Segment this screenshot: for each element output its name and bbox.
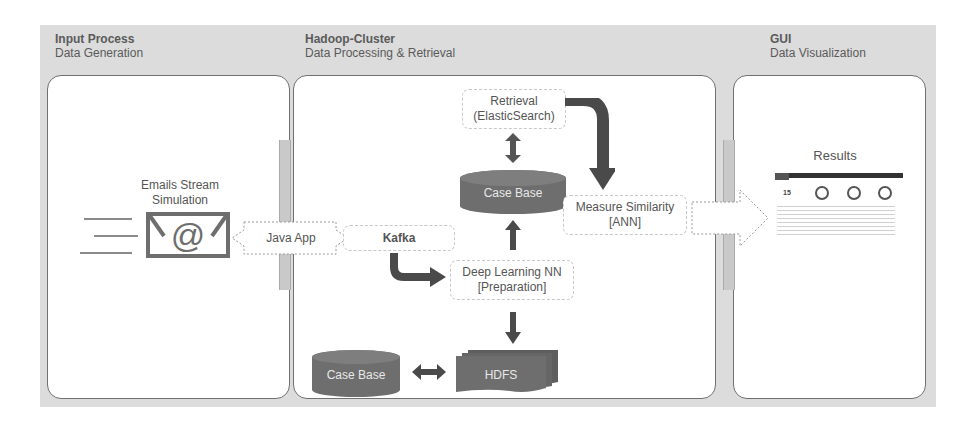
connector-bar-left	[279, 140, 291, 290]
dashboard-kpi: 15	[783, 189, 791, 196]
section-header-input: Input Process Data Generation	[55, 32, 143, 60]
results-label: Results	[790, 148, 880, 163]
email-label-line1: Emails Stream	[110, 178, 250, 193]
dl-to-hdfs-arrow	[505, 312, 521, 344]
dl-label-line2: [Preparation]	[478, 280, 547, 295]
results-dashboard-thumbnail: 15	[775, 173, 903, 241]
section-title: Hadoop-Cluster	[305, 32, 455, 46]
dashboard-logo	[775, 173, 789, 180]
case-base-bottom-label: Case Base	[310, 368, 402, 382]
kafka-to-dl-arrow	[388, 253, 450, 287]
retrieval-casebase-double-arrow	[505, 133, 521, 163]
section-header-cluster: Hadoop-Cluster Data Processing & Retriev…	[305, 32, 455, 60]
deep-learning-node: Deep Learning NN [Preparation]	[450, 260, 574, 300]
case-base-top-label: Case Base	[458, 186, 568, 200]
dashboard-header-bar	[775, 173, 903, 178]
measure-label-line1: Measure Similarity	[576, 200, 675, 215]
dl-label-line1: Deep Learning NN	[462, 265, 561, 280]
email-at-icon: @	[80, 210, 230, 260]
retrieval-to-measure-arrow	[565, 98, 615, 193]
kafka-label: Kafka	[383, 231, 416, 246]
section-subtitle: Data Generation	[55, 46, 143, 60]
section-subtitle: Data Visualization	[770, 46, 866, 60]
retrieval-node: Retrieval (ElasticSearch)	[462, 89, 566, 129]
email-stream-label: Emails Stream Simulation	[110, 178, 250, 208]
dashboard-gauge-1	[815, 186, 829, 200]
measure-similarity-node: Measure Similarity [ANN]	[563, 195, 687, 235]
dl-to-casebase-arrow	[505, 220, 521, 250]
email-label-line2: Simulation	[110, 193, 250, 208]
to-gui-arrow	[690, 188, 770, 248]
hdfs-label: HDFS	[454, 368, 548, 382]
measure-label-line2: [ANN]	[609, 215, 641, 230]
dashboard-gauge-3	[878, 186, 892, 200]
retrieval-label-line1: Retrieval	[490, 94, 537, 109]
retrieval-label-line2: (ElasticSearch)	[473, 109, 554, 124]
section-title: GUI	[770, 32, 866, 46]
kafka-node: Kafka	[343, 225, 455, 251]
dashboard-gauge-2	[847, 186, 861, 200]
java-app-label: Java App	[248, 231, 334, 246]
section-header-gui: GUI Data Visualization	[770, 32, 866, 60]
section-title: Input Process	[55, 32, 143, 46]
svg-text:@: @	[171, 216, 206, 254]
section-subtitle: Data Processing & Retrieval	[305, 46, 455, 60]
dashboard-table	[777, 206, 895, 236]
casebase-hdfs-double-arrow	[412, 364, 446, 380]
